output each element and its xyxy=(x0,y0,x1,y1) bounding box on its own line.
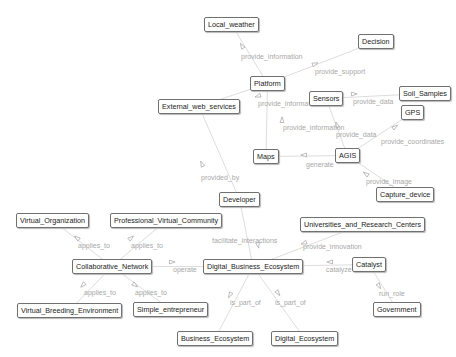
edge-label: provide_coordinates xyxy=(381,138,444,146)
node-sensors[interactable]: Sensors xyxy=(309,91,343,106)
node-local-weather[interactable]: Local_weather xyxy=(204,17,259,32)
edge-label: provide_data xyxy=(336,131,376,139)
edge-label: provided_by xyxy=(201,174,239,182)
arrowhead-icon xyxy=(376,283,381,289)
arrowhead-icon xyxy=(327,260,333,264)
node-decision[interactable]: Decision xyxy=(358,34,394,49)
node-virtual-organization[interactable]: Virtual_Organization xyxy=(16,213,89,228)
node-soil-samples[interactable]: Soil_Samples xyxy=(399,86,451,101)
arrowhead-icon xyxy=(81,282,86,287)
arrowhead-icon xyxy=(240,43,245,49)
edge-label: provide_support xyxy=(315,68,365,76)
edge-label: provide_image xyxy=(366,178,412,186)
node-developer[interactable]: Developer xyxy=(219,192,260,207)
arrowhead-icon xyxy=(275,290,280,296)
node-agis[interactable]: AGIS xyxy=(335,148,360,163)
edge-label: provide_data xyxy=(353,98,393,106)
node-digital-business-ecosystem[interactable]: Digital_Business_Ecosystem xyxy=(203,259,303,274)
node-collaborative-network[interactable]: Collaborative_Network xyxy=(72,259,152,274)
edge-label: run_role xyxy=(379,290,405,298)
arrowhead-icon xyxy=(255,93,261,97)
arrowhead-icon xyxy=(312,63,318,67)
node-government[interactable]: Government xyxy=(373,302,421,317)
edge-label: catalyze xyxy=(326,266,352,274)
edge-label: facilitate_interactions xyxy=(212,237,277,245)
arrowhead-icon xyxy=(229,292,233,298)
edge-label: applies_to xyxy=(135,289,167,297)
node-simple-entrepreneur[interactable]: Simple_entrepreneur xyxy=(133,302,208,317)
diagram-canvas[interactable]: provide_informationprovide_supportprovid… xyxy=(0,0,456,357)
edge-label: applies_to xyxy=(131,242,163,250)
node-gps[interactable]: GPS xyxy=(401,105,424,120)
arrowhead-icon xyxy=(201,161,205,167)
arrowhead-icon xyxy=(169,260,175,264)
edge-label: generate xyxy=(306,161,334,169)
node-capture-device[interactable]: Capture_device xyxy=(376,187,434,202)
edge-label: provide_innovation xyxy=(303,243,362,251)
node-maps[interactable]: Maps xyxy=(253,149,279,164)
node-catalyst[interactable]: Catalyst xyxy=(352,257,386,272)
node-professional-virtual-community[interactable]: Professional_Virtual_Community xyxy=(110,213,222,228)
edge-label: is_part_of xyxy=(230,299,261,307)
node-virtual-breeding-environment[interactable]: Virtual_Breeding_Environment xyxy=(17,303,122,318)
edge-label: provide_information xyxy=(241,53,302,61)
arrowhead-icon xyxy=(128,236,134,241)
edge-label: applies_to xyxy=(84,289,116,297)
node-business-ecosystem[interactable]: Business_Ecosystem xyxy=(177,331,253,346)
edge-provide-information xyxy=(266,84,268,157)
edge-label: applies_to xyxy=(78,242,110,250)
node-platform[interactable]: Platform xyxy=(250,76,285,91)
node-digital-ecosystem[interactable]: Digital_Ecosystem xyxy=(271,331,338,346)
node-external-web-services[interactable]: External_web_services xyxy=(158,99,240,114)
edge-label: operate xyxy=(173,266,197,274)
arrowhead-icon xyxy=(280,117,284,123)
edge-facilitate-interactions xyxy=(240,200,254,267)
node-universities-and-research-centers[interactable]: Universities_and_Research_Centers xyxy=(300,217,425,232)
edge-label: is_part_of xyxy=(275,299,306,307)
arrowhead-icon xyxy=(363,172,369,177)
arrowhead-icon xyxy=(351,92,357,96)
edge-provided-by xyxy=(199,107,240,200)
